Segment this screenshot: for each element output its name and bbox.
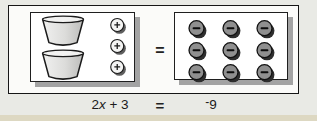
minus-counter-icon xyxy=(221,41,242,62)
equation-equals-sign: = xyxy=(147,97,173,114)
plus-counter-icon xyxy=(109,59,127,77)
minus-counter-icon xyxy=(187,41,208,62)
equation-model-figure: = 2x + 3 = -9 xyxy=(0,0,317,121)
minus-counter-icon xyxy=(255,19,276,40)
equation-lhs-variable: x xyxy=(99,97,106,112)
equation-rhs-value: 9 xyxy=(209,97,217,112)
plus-counter-icon xyxy=(109,17,127,35)
cup-icon xyxy=(37,15,89,47)
minus-counter-icon xyxy=(255,63,276,84)
minus-counters-group xyxy=(175,13,287,84)
equation-lhs: 2x + 3 xyxy=(70,97,150,112)
model-box: = xyxy=(8,5,299,94)
cups-group xyxy=(37,15,89,81)
minus-counter-icon xyxy=(187,63,208,84)
equation-lhs-plus-term: + 3 xyxy=(106,97,129,112)
equation-rhs: -9 xyxy=(192,97,230,112)
equation-rhs-negative-sign: - xyxy=(205,95,209,109)
left-panel xyxy=(30,12,135,82)
right-panel xyxy=(174,12,288,80)
minus-counter-icon xyxy=(221,63,242,84)
equation-lhs-coefficient: 2 xyxy=(91,97,99,112)
plus-counters-group xyxy=(109,17,127,77)
minus-counter-icon xyxy=(187,19,208,40)
equation-caption: 2x + 3 = -9 xyxy=(0,97,317,117)
cup-icon xyxy=(37,49,89,81)
page-edge-strip xyxy=(0,115,317,121)
minus-counter-icon xyxy=(221,19,242,40)
minus-counter-icon xyxy=(255,41,276,62)
plus-counter-icon xyxy=(109,38,127,56)
model-equals-sign: = xyxy=(146,42,174,60)
